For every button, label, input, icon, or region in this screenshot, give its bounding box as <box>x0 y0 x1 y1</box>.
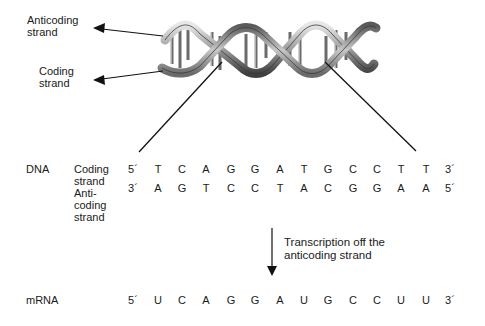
three-prime-end: 3´ <box>443 294 457 306</box>
base: G <box>248 163 262 175</box>
base: C <box>346 163 360 175</box>
three-prime-end: 3´ <box>126 182 140 194</box>
base: C <box>224 182 238 194</box>
label-line: anticoding strand <box>284 249 385 262</box>
five-prime-end: 5´ <box>126 163 140 175</box>
label-line: strand <box>74 211 106 223</box>
base: U <box>151 294 165 306</box>
label-line: strand <box>27 26 78 38</box>
base: T <box>273 182 287 194</box>
five-prime-end: 5´ <box>443 182 457 194</box>
coding-pointer-arrow <box>93 71 163 85</box>
zoom-line-right <box>325 62 416 151</box>
base: A <box>273 294 287 306</box>
base: A <box>151 182 165 194</box>
base: G <box>175 182 189 194</box>
base: G <box>370 182 384 194</box>
base: A <box>199 294 213 306</box>
base: G <box>321 163 335 175</box>
base: C <box>175 163 189 175</box>
base: G <box>224 294 238 306</box>
base: G <box>346 182 360 194</box>
anticoding-strand-sequence: 3´ A G T C C T A C G G A A 5´ <box>0 182 485 196</box>
three-prime-end: 3´ <box>443 163 457 175</box>
five-prime-end: 5´ <box>126 294 140 306</box>
base: A <box>419 182 433 194</box>
base: C <box>248 182 262 194</box>
mrna-sequence: 5´ U C A G G A U G C C U U 3´ <box>0 294 485 308</box>
base: U <box>394 294 408 306</box>
label-line: Transcription off the <box>284 236 385 249</box>
base: G <box>248 294 262 306</box>
base: C <box>370 294 384 306</box>
anticoding-strand-label: Anticoding strand <box>27 14 78 38</box>
coding-strand-sequence: 5´ T C A G G A T G C C T T 3´ <box>0 163 485 177</box>
base: T <box>199 182 213 194</box>
label-line: coding <box>74 199 106 211</box>
label-line: strand <box>39 77 74 89</box>
base: T <box>151 163 165 175</box>
anticoding-pointer-arrow <box>93 23 163 36</box>
base: C <box>346 294 360 306</box>
base: T <box>419 163 433 175</box>
base: T <box>394 163 408 175</box>
transcription-note: Transcription off the anticoding strand <box>284 236 385 262</box>
base: C <box>175 294 189 306</box>
label-line: Anticoding <box>27 14 78 26</box>
base: U <box>419 294 433 306</box>
base: A <box>297 182 311 194</box>
base: C <box>370 163 384 175</box>
base: A <box>394 182 408 194</box>
label-line: Coding <box>39 65 74 77</box>
base: G <box>224 163 238 175</box>
base: A <box>273 163 287 175</box>
transcription-arrow <box>267 228 277 276</box>
coding-strand-label: Coding strand <box>39 65 74 89</box>
base: U <box>297 294 311 306</box>
base: C <box>321 182 335 194</box>
dna-helix-icon <box>162 25 376 74</box>
base: G <box>321 294 335 306</box>
base: A <box>199 163 213 175</box>
base: T <box>297 163 311 175</box>
